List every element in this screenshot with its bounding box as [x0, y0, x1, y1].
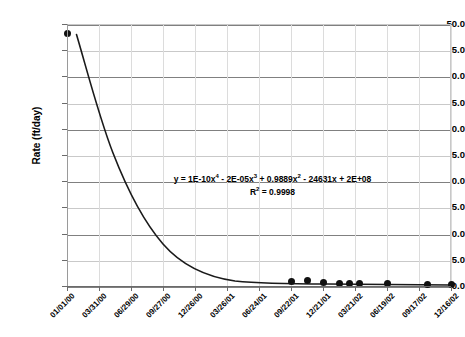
x-tick-mark	[451, 287, 452, 291]
data-point-marker	[424, 281, 431, 288]
y-axis-title: Rate (ft/day)	[31, 76, 42, 196]
equation-prefix: y = 1E-10x	[174, 174, 216, 184]
trendline-equation-annotation: y = 1E-10x4 - 2E-05x3 + 0.9889x2 - 24631…	[155, 173, 390, 198]
chart-container: Rate (ft/day) 50.045.040.035.030.025.020…	[0, 0, 465, 337]
equation-mid-1: - 2E-05x	[219, 174, 254, 184]
equation-tail: - 24631x + 2E+08	[301, 174, 371, 184]
data-point-marker	[320, 279, 327, 286]
plot-area: y = 1E-10x4 - 2E-05x3 + 0.9889x2 - 24631…	[67, 24, 451, 286]
equation-mid-2: + 0.9889x	[257, 174, 297, 184]
x-tick-mark	[419, 287, 420, 291]
x-tick-mark	[67, 287, 68, 291]
y-axis-line	[67, 24, 68, 287]
x-tick-mark	[131, 287, 132, 291]
data-point-marker	[288, 278, 295, 285]
data-point-marker	[304, 277, 311, 284]
gridline-x	[451, 25, 452, 286]
trendline-curve	[67, 25, 451, 287]
x-tick-mark	[355, 287, 356, 291]
x-tick-mark	[291, 287, 292, 291]
x-tick-mark	[387, 287, 388, 291]
equation-line: y = 1E-10x4 - 2E-05x3 + 0.9889x2 - 24631…	[155, 173, 390, 185]
r-squared-value: = 0.9998	[259, 187, 295, 197]
x-tick-mark	[163, 287, 164, 291]
x-tick-label: 12/16/02	[424, 292, 461, 329]
x-tick-mark	[259, 287, 260, 291]
x-tick-mark	[227, 287, 228, 291]
x-tick-mark	[195, 287, 196, 291]
x-tick-mark	[323, 287, 324, 291]
x-tick-mark	[99, 287, 100, 291]
r-squared-line: R2 = 0.9998	[155, 186, 390, 198]
